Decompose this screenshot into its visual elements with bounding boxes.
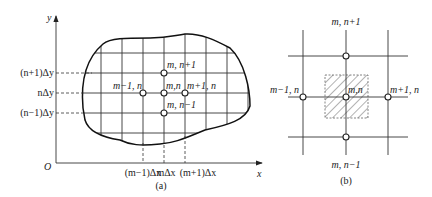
x-tick-m: mΔx <box>156 167 175 178</box>
grid-lines <box>60 20 260 160</box>
x-tick-m-plus-1: (m+1)Δx <box>180 167 217 179</box>
y-tick-n-minus-1: (n−1)Δy <box>20 107 54 119</box>
y-tick-n-plus-1: (n+1)Δy <box>20 67 54 79</box>
node-label-bottom: m, n−1 <box>167 99 196 110</box>
b-node-left <box>300 94 306 100</box>
figure-b: m, n+1 m−1, n m,n m+1, n m, n−1 (b) <box>270 16 419 187</box>
node-label-top: m, n+1 <box>167 59 196 70</box>
figure-a: y x O (n+1)Δy nΔy (n−1)Δy (m−1)Δx mΔx (m… <box>20 12 262 192</box>
node-bottom <box>161 110 167 116</box>
y-tick-n: nΔy <box>38 87 54 98</box>
origin-label: O <box>44 161 51 172</box>
b-node-top <box>343 53 349 59</box>
node-label-center: m,n <box>166 80 181 91</box>
node-top <box>161 70 167 76</box>
node-label-left: m−1, n <box>113 80 142 91</box>
node-label-right: m+1, n <box>187 80 216 91</box>
caption-b: (b) <box>340 175 352 187</box>
x-axis-label: x <box>256 168 262 179</box>
y-axis-label: y <box>46 12 52 23</box>
b-node-label-top: m, n+1 <box>332 16 361 27</box>
b-node-label-left: m−1, n <box>270 84 299 95</box>
b-node-label-right: m+1, n <box>390 84 419 95</box>
caption-a: (a) <box>155 180 166 192</box>
b-node-label-center: m,n <box>348 84 363 95</box>
b-node-bottom <box>343 134 349 140</box>
b-node-label-bottom: m, n−1 <box>332 159 361 170</box>
